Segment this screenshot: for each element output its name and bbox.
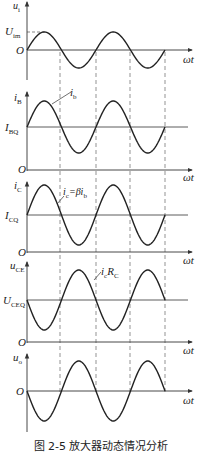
ui-axis-label: ui — [13, 1, 20, 14]
ibq-level-label: IBQ — [5, 122, 18, 136]
ui-x-axis-label: ωt — [183, 54, 194, 65]
ib-x-axis-label: ωt — [183, 172, 194, 183]
uo-origin-label: O — [16, 386, 24, 397]
uce-annotation: icRC — [101, 266, 119, 280]
ic-x-axis-label: ωt — [183, 255, 194, 266]
axes — [27, 2, 192, 432]
uceq-level-label: UCEQ — [3, 295, 25, 309]
icq-level-label: ICQ — [5, 210, 18, 224]
ib-axis-label: iB — [14, 92, 22, 106]
uo-x-axis-label: ωt — [183, 395, 194, 406]
uce-x-axis-label: ωt — [183, 345, 194, 356]
ib-annotation: ib — [70, 87, 77, 101]
ic-annotation: ic=βib — [63, 187, 87, 200]
dashed-guide-lines — [27, 32, 165, 392]
ui-origin-label: O — [16, 45, 24, 56]
uce-origin-label: O — [18, 337, 26, 348]
figure-caption: 图 2-5 放大器动态情况分析 — [0, 437, 202, 453]
ic-origin-label: O — [18, 247, 26, 258]
uo-axis-label: uo — [13, 352, 22, 366]
uce-axis-label: uCE — [10, 260, 24, 274]
ib-origin-label: O — [18, 164, 26, 175]
ic-axis-label: iC — [14, 180, 22, 194]
ui-amplitude-label: Uim — [5, 26, 20, 40]
